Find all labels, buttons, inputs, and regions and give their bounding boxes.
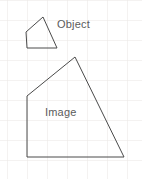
diagram-canvas: Object Image — [0, 0, 142, 179]
object-polygon[interactable] — [26, 17, 57, 48]
object-label: Object — [57, 19, 90, 30]
image-label: Image — [45, 107, 77, 118]
